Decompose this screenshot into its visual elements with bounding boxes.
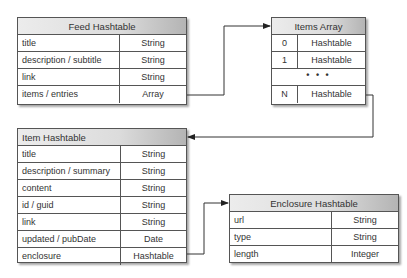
field-type: String <box>332 212 398 228</box>
field-name: url <box>230 212 332 228</box>
field-name: length <box>230 246 332 263</box>
field-type: String <box>120 52 186 68</box>
field-name: type <box>230 229 332 245</box>
field-name: link <box>18 69 120 85</box>
field-name: description / summary <box>18 163 121 179</box>
table-row: linkString <box>18 69 186 86</box>
table-row: description / subtitleString <box>18 52 186 69</box>
item-hashtable: Item Hashtable titleString description /… <box>17 128 187 263</box>
field-type: String <box>121 163 186 179</box>
field-type: Hashtable <box>298 52 365 68</box>
field-type: Hashtable <box>298 35 365 51</box>
ellipsis: • • • <box>272 69 365 85</box>
field-type: String <box>121 180 186 196</box>
field-type: Integer <box>332 246 398 263</box>
field-name: description / subtitle <box>18 52 120 68</box>
field-type: String <box>121 197 186 213</box>
field-name: id / guid <box>18 197 121 213</box>
table-row: linkString <box>18 214 186 231</box>
field-type: String <box>332 229 398 245</box>
field-name: items / entries <box>18 86 120 103</box>
arrow-item-to-enclosure <box>187 203 228 254</box>
enclosure-hashtable: Enclosure Hashtable urlString typeString… <box>229 194 399 263</box>
item-hashtable-title: Item Hashtable <box>18 129 186 146</box>
field-type: Hashtable <box>298 86 365 103</box>
field-name: enclosure <box>18 248 121 265</box>
field-type: String <box>120 69 186 85</box>
table-row: enclosureHashtable <box>18 248 186 265</box>
array-index: 0 <box>272 35 298 51</box>
table-row: NHashtable <box>272 86 365 103</box>
field-type: Date <box>121 231 186 247</box>
field-type: String <box>121 214 186 230</box>
table-row: updated / pubDateDate <box>18 231 186 248</box>
field-type: Array <box>120 86 186 103</box>
items-array: Items Array 0Hashtable 1Hashtable • • • … <box>271 17 366 105</box>
array-index: 1 <box>272 52 298 68</box>
table-row: id / guidString <box>18 197 186 214</box>
field-name: content <box>18 180 121 196</box>
table-row: lengthInteger <box>230 246 398 263</box>
field-name: link <box>18 214 121 230</box>
field-type: String <box>120 35 186 51</box>
table-row: titleString <box>18 35 186 52</box>
enclosure-hashtable-title: Enclosure Hashtable <box>230 195 398 212</box>
field-name: title <box>18 35 120 51</box>
table-row: typeString <box>230 229 398 246</box>
field-type: Hashtable <box>121 248 186 265</box>
table-row: urlString <box>230 212 398 229</box>
field-name: updated / pubDate <box>18 231 121 247</box>
feed-hashtable: Feed Hashtable titleString description /… <box>17 17 187 105</box>
table-row: contentString <box>18 180 186 197</box>
array-index: N <box>272 86 298 103</box>
table-row: 0Hashtable <box>272 35 365 52</box>
table-row: items / entriesArray <box>18 86 186 103</box>
field-name: title <box>18 146 121 162</box>
feed-hashtable-title: Feed Hashtable <box>18 18 186 35</box>
items-array-title: Items Array <box>272 18 365 35</box>
table-row: titleString <box>18 146 186 163</box>
field-type: String <box>121 146 186 162</box>
arrow-feed-to-items <box>187 26 270 95</box>
ellipsis-row: • • • <box>272 69 365 86</box>
table-row: description / summaryString <box>18 163 186 180</box>
table-row: 1Hashtable <box>272 52 365 69</box>
